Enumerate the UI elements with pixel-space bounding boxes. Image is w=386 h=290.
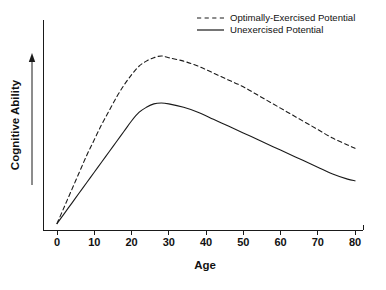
legend-label: Optimally-Exercised Potential (230, 12, 355, 23)
x-tick-label: 10 (88, 236, 100, 248)
x-tick-label: 20 (125, 236, 137, 248)
x-tick-label: 60 (274, 236, 286, 248)
cognitive-ability-chart: 01020304050607080 Cognitive Ability Age … (0, 0, 386, 290)
x-tick-label: 0 (54, 236, 60, 248)
x-tick-label: 50 (237, 236, 249, 248)
y-axis-title: Cognitive Ability (9, 79, 21, 170)
x-tick-label: 70 (312, 236, 324, 248)
legend-label: Unexercised Potential (230, 24, 323, 35)
chart-figure: 01020304050607080 Cognitive Ability Age … (0, 0, 386, 290)
x-tick-label: 30 (163, 236, 175, 248)
x-axis-tick-labels: 01020304050607080 (54, 236, 361, 248)
x-tick-label: 40 (200, 236, 212, 248)
x-axis-title: Age (194, 259, 216, 271)
x-tick-label: 80 (349, 236, 361, 248)
